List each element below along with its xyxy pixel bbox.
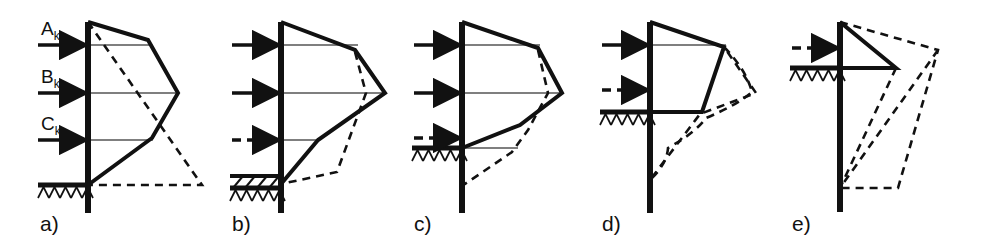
- panel-c-soil-hatch: [423, 150, 434, 161]
- panel-d-soil-hatch: [633, 114, 644, 125]
- panel-label-b: b): [232, 212, 251, 235]
- panel-e-dashed-outline: [840, 50, 938, 188]
- panel-e-soil-hatch: [823, 70, 834, 81]
- panel-e-dashed-outline: [840, 22, 938, 188]
- panel-a-soil-hatch: [60, 187, 71, 198]
- panel-c-pressure-outline: [462, 22, 562, 148]
- panel-c-soil-hatch: [445, 150, 456, 161]
- panel-b-soil-hatch: [230, 190, 241, 201]
- earth-pressure-diagram-figure: AkBkCka)b)c)d)e): [0, 0, 982, 241]
- load-label-B: Bk: [41, 66, 61, 91]
- panel-a-soil-hatch: [49, 187, 60, 198]
- panel-b-soil-hatch: [263, 190, 274, 201]
- panel-a-soil-hatch: [38, 187, 49, 198]
- panel-e-soil-hatch: [812, 70, 823, 81]
- panel-label-e: e): [792, 212, 811, 235]
- panel-label-c: c): [414, 212, 432, 235]
- panel-c-soil-hatch: [412, 150, 423, 161]
- panel-d-soil-hatch: [622, 114, 633, 125]
- panel-a-pressure-outline: [88, 22, 178, 185]
- panel-c-soil-hatch: [434, 150, 445, 161]
- panel-b-soil-hatch: [252, 190, 263, 201]
- panel-c-dashed-outline: [462, 50, 548, 186]
- panel-b-soil-hatch: [241, 190, 252, 201]
- diagram-canvas: AkBkCka)b)c)d)e): [0, 0, 982, 241]
- panel-e-soil-hatch: [790, 70, 801, 81]
- panel-a-soil-hatch: [71, 187, 82, 198]
- panel-label-d: d): [602, 212, 621, 235]
- load-label-C: Ck: [41, 113, 62, 138]
- load-label-A: Ak: [41, 18, 61, 43]
- panel-d-soil-hatch: [611, 114, 622, 125]
- panel-b-pressure-outline: [281, 22, 385, 184]
- panel-d-soil-hatch: [600, 114, 611, 125]
- panel-b-dashed-outline: [281, 52, 366, 184]
- panel-e-soil-hatch: [801, 70, 812, 81]
- panel-a-dashed-outline: [88, 22, 202, 185]
- panel-label-a: a): [40, 212, 59, 235]
- panel-d-pressure-outline: [650, 22, 724, 112]
- panel-e-dashed-outline: [840, 68, 896, 188]
